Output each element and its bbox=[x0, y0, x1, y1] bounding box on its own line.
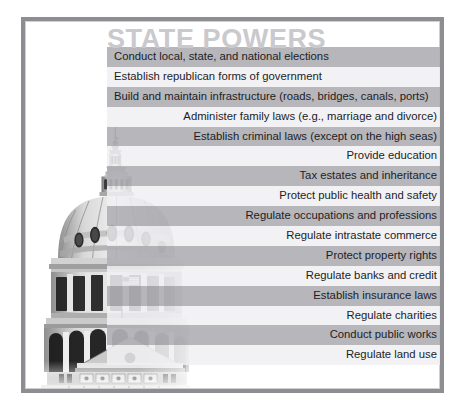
state-powers-list: Conduct local, state, and national elect… bbox=[107, 47, 444, 365]
figure-canvas: STATE POWERS Conduct local, state, and n… bbox=[0, 0, 468, 411]
state-power-row: Establish republican forms of government bbox=[107, 67, 444, 87]
state-power-row: Establish criminal laws (except on the h… bbox=[107, 127, 444, 147]
state-power-row: Conduct public works bbox=[107, 325, 444, 345]
state-power-row: Regulate occupations and professions bbox=[107, 206, 444, 226]
state-power-row: Protect property rights bbox=[107, 246, 444, 266]
state-power-row: Regulate banks and credit bbox=[107, 266, 444, 286]
state-power-row: Regulate intrastate commerce bbox=[107, 226, 444, 246]
state-power-row: Establish insurance laws bbox=[107, 286, 444, 306]
state-power-row: Provide education bbox=[107, 146, 444, 166]
page-title: STATE POWERS bbox=[107, 24, 443, 54]
building-base bbox=[39, 385, 193, 392]
state-power-row: Regulate charities bbox=[107, 306, 444, 326]
building-entablature bbox=[47, 372, 187, 385]
state-power-row: Regulate land use bbox=[107, 345, 444, 365]
state-power-row: Administer family laws (e.g., marriage a… bbox=[107, 107, 444, 127]
state-power-row: Tax estates and inheritance bbox=[107, 166, 444, 186]
state-power-row: Protect public health and safety bbox=[107, 186, 444, 206]
state-power-row: Build and maintain infrastructure (roads… bbox=[107, 87, 444, 107]
figure-frame: STATE POWERS Conduct local, state, and n… bbox=[21, 17, 444, 393]
